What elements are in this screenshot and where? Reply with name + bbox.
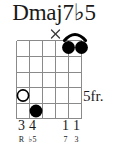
finger-number-string-5: 4	[27, 119, 38, 133]
finger-dot-string-2-fret-1	[62, 41, 75, 54]
chord-diagram-card: Dmaj7♭5	[0, 0, 118, 154]
interval-string-4	[38, 135, 49, 149]
interval-label-row: R ♭5 7 3	[16, 135, 82, 149]
fret-position-label: 5fr.	[83, 88, 103, 105]
interval-string-3	[49, 135, 60, 149]
open-circle-string-6-fret-4	[17, 90, 28, 101]
interval-string-5: ♭5	[27, 135, 38, 149]
finger-number-string-1: 1	[71, 119, 82, 133]
finger-number-string-3	[49, 119, 60, 133]
finger-dot-string-5-fret-5	[30, 105, 43, 118]
finger-number-string-4	[38, 119, 49, 133]
finger-number-string-2: 1	[60, 119, 71, 133]
interval-string-2: 7	[60, 135, 71, 149]
finger-number-row: 3 4 1 1	[16, 119, 82, 133]
interval-string-6: R	[16, 135, 27, 149]
finger-number-string-6: 3	[16, 119, 27, 133]
barre-arc	[65, 35, 86, 41]
muted-x-icon	[52, 30, 60, 38]
finger-dot-string-1-fret-1	[75, 41, 88, 54]
interval-string-1: 3	[71, 135, 82, 149]
